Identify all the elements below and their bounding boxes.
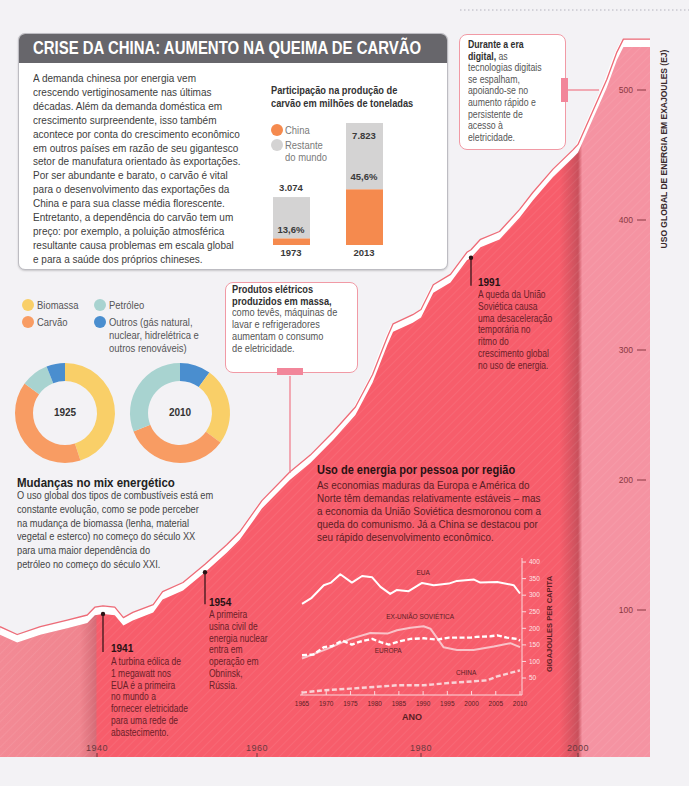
panel-title: CRISE DA CHINA: AUMENTO NA QUEIMA DE CAR…: [33, 34, 421, 63]
regular-text: aumento rápido e: [468, 96, 536, 108]
text-line: 1 megawatt nos: [111, 668, 188, 680]
text-line: Por ser abundante e barato, o carvão é v…: [33, 169, 240, 183]
text-line: crescimento surpreendente, isso também: [33, 114, 240, 128]
regular-text: as: [496, 50, 508, 62]
series-label: CHINA: [456, 669, 477, 676]
x-tick-label: 1940: [86, 743, 108, 753]
inset-y-tick-label: 150: [529, 641, 540, 648]
text-line: EUA é a primeira: [111, 680, 188, 692]
inset-x-tick-label: 1990: [416, 700, 431, 707]
text-line: em outros países em razão de seu gigante…: [33, 142, 240, 156]
inset-x-tick-label: 1985: [392, 700, 407, 707]
legend-carvao: Carvão: [37, 316, 67, 329]
inset-x-tick-label: 1975: [343, 700, 358, 707]
text-line: abastecimento.: [111, 727, 188, 739]
electric-note-text: Produtos elétricosproduzidos em massa,co…: [232, 284, 337, 354]
text-line: operação em: [209, 656, 268, 668]
text-line: As economias maduras da Europa e América…: [317, 479, 541, 492]
regular-text: lavar e refrigeradores: [232, 318, 320, 330]
inset-x-tick-label: 1965: [295, 700, 310, 707]
text-line: Soviética causa: [478, 301, 552, 313]
text-line: entra em: [209, 644, 268, 656]
event-1991-text: A queda da UniãoSoviética causauma desac…: [478, 289, 552, 372]
bar-year-2013: 2013: [334, 247, 394, 259]
text-line: para uma maior dependência do: [17, 544, 213, 558]
text-line: constante evolução, como se pode percebe…: [17, 503, 213, 517]
event-1991-year: 1991: [478, 277, 500, 289]
legend-rest-of-world-label: Restantedo mundo: [285, 139, 327, 163]
y-tick-label: 500: [619, 85, 633, 95]
text-line: seu rápido desenvolvimento econômico.: [317, 531, 541, 544]
donut-slice-carvão: [15, 384, 80, 463]
inset-x-tick-label: 1980: [367, 700, 382, 707]
text-line: Norte têm demandas relativamente estávei…: [317, 492, 541, 505]
text-line: A primeira: [209, 609, 268, 621]
regular-text: aumentam o consumo: [232, 330, 323, 342]
text-line: na mudança de biomassa (lenha, material: [17, 517, 213, 531]
x-tick-label: 1980: [410, 743, 432, 753]
text-line: usina civil de: [209, 621, 268, 633]
event-1954-year: 1954: [209, 597, 231, 609]
coal-chart-title: Participação na produção decarvão em mil…: [271, 84, 413, 110]
text-line: O uso global dos tipos de combustíveis e…: [17, 489, 213, 503]
bar-year-1973: 1973: [261, 247, 321, 259]
legend-dot-petróleo: [94, 299, 106, 311]
text-line: fornecer eletricidade: [111, 703, 188, 715]
legend-dot-outros: [94, 316, 106, 328]
regular-text: como tevês, máquinas de: [232, 306, 337, 318]
event-1941-year: 1941: [111, 643, 133, 655]
bold-text: Produtos elétricos: [232, 283, 313, 295]
text-line: a economia da União Soviética desmoronou…: [317, 505, 541, 518]
digital-note-text: Durante a eradigital, astecnologias digi…: [468, 39, 542, 143]
inset-y-tick-label: 300: [529, 591, 540, 598]
panel-title-bar: CRISE DA CHINA: AUMENTO NA QUEIMA DE CAR…: [19, 34, 447, 63]
text-line: no mundo a: [111, 691, 188, 703]
digital-note-tab: [561, 78, 568, 102]
regular-text: persistente de: [468, 108, 523, 120]
legend-china-label: China: [285, 124, 310, 137]
per-capita-heading: Uso de energia por pessoa por região: [317, 462, 515, 478]
text-line: setor de manufatura orientado às exporta…: [33, 155, 240, 169]
text-line: ritmo do: [478, 336, 552, 348]
text-line: A queda da União: [478, 289, 552, 301]
event-1941-text: A turbina eólica de1 megawatt nosEUA é a…: [111, 656, 188, 739]
text-line: para o desenvolvimento das exportações d…: [33, 183, 240, 197]
inset-y-tick-label: 50: [529, 674, 537, 681]
text-line: Carvão: [37, 316, 67, 329]
event-marker-dot: [469, 256, 473, 260]
y-tick-label: 100: [619, 605, 633, 615]
bar-total-2013: 7.823: [334, 130, 394, 142]
text-line: Rússia.: [209, 680, 268, 692]
series-label: EX-UNIÃO SOVIÉTICA: [386, 612, 455, 620]
text-line: outros renováveis): [109, 342, 199, 355]
text-line: Petróleo: [109, 299, 144, 312]
per-capita-body: As economias maduras da Europa e América…: [317, 479, 541, 544]
regular-text: de eletricidade.: [232, 342, 295, 354]
text-line: Outros (gás natural,: [109, 316, 199, 329]
text-line: crescimento global: [478, 348, 552, 360]
text-line: China: [285, 124, 310, 137]
text-line: para uma rede de: [111, 715, 188, 727]
y-tick-label: 200: [619, 475, 633, 485]
bar-share-2013: 45,6%: [334, 171, 394, 183]
inset-y-tick-label: 350: [529, 575, 540, 582]
text-line: queda do comunismo. Já a China se destac…: [317, 518, 541, 531]
bold-text: digital,: [468, 50, 496, 62]
legend-outros: Outros (gás natural,nuclear, hidrelétric…: [109, 316, 199, 355]
y-axis-title-exajoules: USO GLOBAL DE ENERGIA EM EXAJOULES (EJ): [658, 44, 670, 254]
china-panel-body: A demanda chinesa por energia vemcrescen…: [33, 72, 240, 267]
text-line: A turbina eólica de: [111, 656, 188, 668]
text-line: vegetal e esterco) no começo do século X…: [17, 530, 213, 544]
bar-total-1973: 3.074: [261, 182, 321, 194]
event-marker-dot: [101, 612, 105, 616]
donut-label-2010: 2010: [160, 407, 200, 419]
text-line: energia nuclear: [209, 633, 268, 645]
text-line: Biomassa: [37, 299, 78, 312]
donut-label-1925: 1925: [45, 407, 85, 419]
donut-slice-petróleo: [130, 363, 180, 431]
series-label: EUROPA: [375, 647, 403, 654]
legend-dot-carvão: [22, 316, 34, 328]
text-line: do mundo: [285, 151, 327, 163]
regular-text: se espalham,: [468, 73, 520, 85]
text-line: uma desaceleração: [478, 313, 552, 325]
